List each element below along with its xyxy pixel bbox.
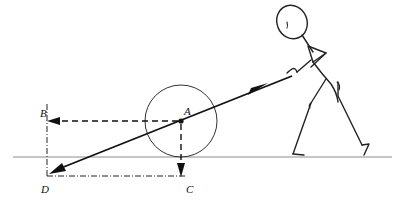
arm-line [297,60,311,72]
neck-line [302,35,313,52]
front-foot-line [362,144,369,155]
rear-foot-line [293,154,304,155]
front-leg-line [338,82,362,145]
vector-ba-arrowhead [47,117,60,125]
rear-leg-line [293,79,326,154]
torso-line [313,62,338,102]
physics-diagram [0,0,405,205]
label-point-d: D [41,184,49,195]
shoulder-knot-cross [311,53,326,67]
label-point-b: B [40,108,47,119]
diagram-canvas: A B C D [0,0,405,205]
label-point-c: C [186,184,193,195]
hand-grip-icon [287,68,297,73]
head-ellipse [272,1,313,44]
rod-arrowhead [248,83,268,95]
vector-da-arrowhead [49,163,66,174]
face-mark-icon [287,22,288,28]
vector-ca-arrowhead [177,163,185,177]
label-point-a: A [184,106,191,117]
point-a-dot [178,118,183,123]
